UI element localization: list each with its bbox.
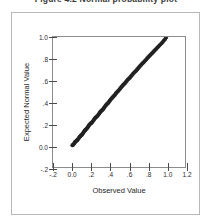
plot-area: -.20.0.2.4.6.81.0-.20.0.2.4.6.81.01.2 xyxy=(52,36,186,168)
x-tick-label: 0.0 xyxy=(68,171,77,178)
x-tick-label: 1.2 xyxy=(182,171,191,178)
x-tick xyxy=(110,163,111,171)
y-tick-label: .8 xyxy=(43,56,48,63)
x-tick-label: 1.0 xyxy=(163,171,172,178)
y-tick xyxy=(49,81,57,82)
x-tick xyxy=(168,163,169,171)
x-tick-label: .8 xyxy=(146,171,151,178)
y-tick xyxy=(49,59,57,60)
figure-container: Expected Normal Value -.20.0.2.4.6.81.0-… xyxy=(11,12,200,215)
y-tick-label: .6 xyxy=(43,78,48,85)
x-tick-label: .6 xyxy=(127,171,132,178)
figure-caption: Figure 4.2 Normal probability plot xyxy=(0,0,212,5)
x-tick xyxy=(187,163,188,171)
y-tick xyxy=(49,125,57,126)
x-tick xyxy=(72,163,73,171)
x-tick-label: -.2 xyxy=(49,171,57,178)
x-tick xyxy=(53,163,54,171)
x-tick xyxy=(130,163,131,171)
y-tick-label: -.2 xyxy=(40,166,48,173)
scatter-points xyxy=(53,37,185,167)
y-axis-title: Expected Normal Value xyxy=(21,36,33,168)
x-tick xyxy=(91,163,92,171)
y-tick-label: 1.0 xyxy=(39,34,48,41)
y-tick-label: .4 xyxy=(43,100,48,107)
y-tick-label: .2 xyxy=(43,122,48,129)
y-tick xyxy=(49,103,57,104)
x-tick xyxy=(149,163,150,171)
y-tick xyxy=(49,37,57,38)
x-tick-label: .2 xyxy=(89,171,94,178)
x-tick-label: .4 xyxy=(108,171,113,178)
y-tick-label: 0.0 xyxy=(39,144,48,151)
y-tick xyxy=(49,147,57,148)
x-axis-title: Observed Value xyxy=(52,186,186,195)
